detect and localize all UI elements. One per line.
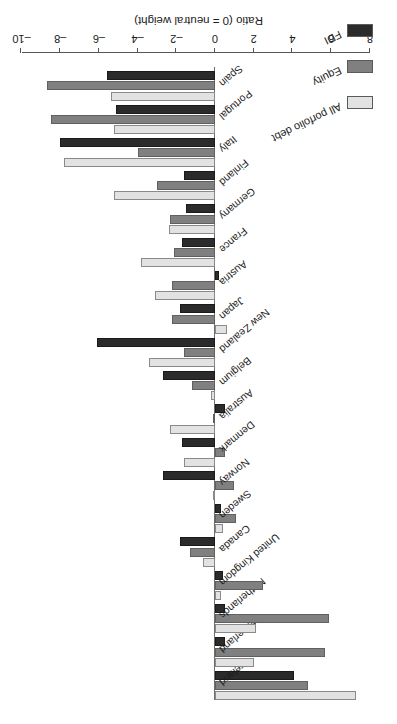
bar-group: Norway (0, 467, 397, 500)
dark-gray-swatch-icon (347, 24, 373, 37)
bar[interactable] (215, 658, 254, 667)
bar[interactable] (97, 338, 215, 347)
bar[interactable] (213, 414, 215, 423)
legend-label: Equity (311, 65, 344, 89)
axis-tick-label: –6 (84, 33, 114, 45)
bar[interactable] (180, 304, 215, 313)
axis-tick-label: –4 (123, 33, 153, 45)
bar-group: Sweden (0, 500, 397, 533)
mid-gray-swatch-icon (347, 60, 373, 73)
bar-group: Germany (0, 201, 397, 234)
chart-figure: IrelandSwitzerlandNetherlandsUnited King… (0, 0, 397, 724)
axis-tick-label: –2 (161, 33, 191, 45)
bar-group: New Zealand (0, 334, 397, 367)
bar[interactable] (215, 325, 227, 334)
bar[interactable] (180, 537, 215, 546)
axis-tick (175, 48, 176, 53)
legend-label: FDI (322, 29, 343, 48)
bar-group: United Kingdom (0, 567, 397, 600)
bar[interactable] (111, 92, 215, 101)
bar-group: Japan (0, 300, 397, 333)
bar[interactable] (215, 614, 329, 623)
bar-group: France (0, 234, 397, 267)
bar[interactable] (215, 591, 221, 600)
bar[interactable] (211, 391, 215, 400)
bar-group: Finland (0, 167, 397, 200)
light-gray-swatch-icon (347, 96, 373, 109)
bar[interactable] (141, 258, 215, 267)
bar[interactable] (215, 525, 223, 534)
axis-tick (214, 48, 215, 53)
bar[interactable] (149, 358, 215, 367)
bar[interactable] (184, 348, 215, 357)
bar[interactable] (184, 171, 215, 180)
axis-tick (21, 48, 22, 53)
bar[interactable] (174, 248, 215, 257)
bar[interactable] (184, 458, 215, 467)
bar-group: Switzerland (0, 633, 397, 666)
rotated-figure-stage: IrelandSwitzerlandNetherlandsUnited King… (0, 0, 397, 724)
bar[interactable] (215, 691, 356, 700)
bar-group: Austria (0, 267, 397, 300)
bar[interactable] (64, 158, 215, 167)
bar-group: Belgium (0, 367, 397, 400)
bar[interactable] (186, 204, 215, 213)
bar[interactable] (60, 138, 215, 147)
bar[interactable] (47, 81, 215, 90)
axis-tick-label: –10 (7, 33, 37, 45)
bar[interactable] (114, 125, 215, 134)
bar[interactable] (190, 548, 215, 557)
bar[interactable] (215, 624, 256, 633)
chart-legend: All porfolio debt Equity FDI (223, 16, 373, 112)
bar[interactable] (155, 291, 215, 300)
bar[interactable] (163, 371, 215, 380)
bar[interactable] (114, 192, 215, 201)
bar[interactable] (171, 215, 216, 224)
bar[interactable] (51, 115, 215, 124)
bar[interactable] (182, 438, 215, 447)
bar[interactable] (171, 425, 216, 434)
bar-group: Italy (0, 134, 397, 167)
bar[interactable] (116, 105, 215, 114)
axis-tick-label: –8 (45, 33, 75, 45)
bar[interactable] (182, 238, 215, 247)
bar[interactable] (213, 491, 215, 500)
bars-layer: IrelandSwitzerlandNetherlandsUnited King… (0, 64, 397, 700)
bar[interactable] (172, 315, 215, 324)
bar[interactable] (172, 281, 215, 290)
bar[interactable] (163, 471, 215, 480)
axis-tick (137, 48, 138, 53)
bar[interactable] (192, 381, 215, 390)
bar-group: Australia (0, 400, 397, 433)
bar[interactable] (203, 558, 215, 567)
bar-group: Denmark (0, 434, 397, 467)
bar[interactable] (138, 148, 215, 157)
bar-group: Ireland (0, 667, 397, 700)
bar[interactable] (157, 181, 215, 190)
bar[interactable] (169, 225, 215, 234)
bar-group: Canada (0, 534, 397, 567)
bar-group: Netherlands (0, 600, 397, 633)
axis-tick (59, 48, 60, 53)
bar[interactable] (107, 71, 215, 80)
axis-tick (98, 48, 99, 53)
